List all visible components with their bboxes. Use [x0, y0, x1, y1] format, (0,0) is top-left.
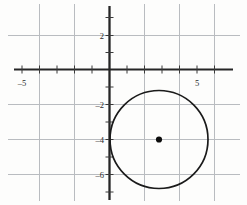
graph-figure: –5 5 2 –2 –4 –6	[0, 0, 247, 205]
y-axis-label--6: –6	[95, 170, 105, 180]
circle-center-point	[156, 136, 162, 142]
x-axis-label-5: 5	[195, 78, 199, 88]
y-axis-label--4: –4	[95, 135, 105, 145]
y-axis-label--2: –2	[95, 100, 105, 110]
coordinate-plane-svg: –5 5 2 –2 –4 –6	[0, 0, 247, 205]
y-axis-label-2: 2	[100, 31, 104, 41]
x-axis-label--5: –5	[17, 78, 27, 88]
